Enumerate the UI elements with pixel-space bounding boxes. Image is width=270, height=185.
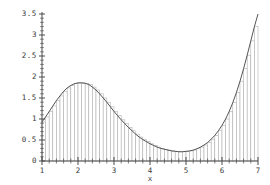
riemann-rectangle (233, 103, 237, 161)
riemann-rectangle (218, 131, 222, 161)
riemann-rectangle (251, 41, 255, 161)
riemann-rectangle (143, 140, 147, 161)
riemann-rectangle (71, 85, 75, 161)
riemann-rectangle (96, 90, 100, 161)
riemann-rectangle (100, 94, 104, 161)
riemann-rectangle (56, 101, 60, 161)
riemann-rectangle (82, 83, 86, 161)
riemann-rectangle (164, 149, 168, 161)
riemann-rectangle (114, 111, 118, 161)
riemann-rectangle (146, 142, 150, 161)
riemann-rectangle (204, 145, 208, 161)
riemann-rectangle (182, 152, 186, 161)
riemann-rectangle (64, 91, 68, 161)
x-tick-label: 2 (68, 166, 88, 175)
riemann-rectangle (85, 83, 89, 161)
y-tick-label: 1.5 (22, 93, 37, 102)
riemann-rectangle (244, 69, 248, 161)
riemann-rectangle (136, 134, 140, 161)
riemann-rectangle (60, 96, 64, 161)
riemann-rectangle (89, 85, 93, 161)
riemann-rectangles-group (42, 27, 258, 161)
x-tick-label: 5 (176, 166, 196, 175)
riemann-rectangle (128, 127, 132, 161)
riemann-rectangle (240, 81, 244, 161)
x-tick-label: 6 (212, 166, 232, 175)
y-tick-label: 1 (32, 114, 37, 123)
y-tick-label: 0 (32, 156, 37, 165)
riemann-rectangle (132, 131, 136, 161)
riemann-rectangle (49, 111, 53, 161)
riemann-rectangle (161, 148, 165, 161)
riemann-rectangle (53, 106, 57, 161)
riemann-rectangle (215, 135, 219, 161)
riemann-rectangle (179, 152, 183, 161)
riemann-rectangle (118, 116, 122, 161)
y-tick-label: 2 (32, 72, 37, 81)
riemann-rectangle (157, 147, 161, 161)
riemann-rectangle (46, 117, 50, 161)
riemann-rectangle (74, 84, 78, 161)
riemann-rectangle (125, 124, 129, 161)
y-tick-label: 0.5 (22, 135, 37, 144)
riemann-rectangle (67, 88, 71, 161)
riemann-rectangle (139, 137, 143, 161)
riemann-rectangle (236, 93, 240, 161)
x-axis-label: x (140, 174, 160, 183)
riemann-rectangle (110, 107, 114, 161)
riemann-sum-plot: 00.511.522.533.5 1234567 x (0, 0, 270, 185)
riemann-rectangle (107, 102, 111, 161)
riemann-rectangle (193, 150, 197, 161)
y-tick-label: 3.5 (22, 9, 37, 18)
riemann-rectangle (92, 87, 96, 161)
riemann-rectangle (42, 122, 46, 161)
riemann-rectangle (247, 55, 251, 161)
y-tick-label: 3 (32, 30, 37, 39)
x-tick-label: 7 (248, 166, 268, 175)
x-tick-label: 3 (104, 166, 124, 175)
riemann-rectangle (197, 149, 201, 161)
riemann-rectangle (186, 151, 190, 161)
riemann-rectangle (226, 119, 230, 161)
riemann-rectangle (121, 120, 125, 161)
riemann-rectangle (168, 150, 172, 161)
riemann-rectangle (229, 111, 233, 161)
riemann-rectangle (150, 144, 154, 161)
riemann-rectangle (222, 125, 226, 161)
riemann-rectangle (78, 83, 82, 161)
x-tick-label: 1 (32, 166, 52, 175)
chart-canvas (0, 0, 270, 185)
riemann-rectangle (200, 147, 204, 161)
riemann-rectangle (208, 143, 212, 161)
riemann-rectangle (211, 139, 215, 161)
y-tick-label: 2.5 (22, 51, 37, 60)
riemann-rectangle (175, 151, 179, 161)
riemann-rectangle (172, 151, 176, 161)
riemann-rectangle (254, 27, 258, 161)
riemann-rectangle (190, 151, 194, 161)
riemann-rectangle (103, 98, 107, 161)
riemann-rectangle (154, 145, 158, 161)
